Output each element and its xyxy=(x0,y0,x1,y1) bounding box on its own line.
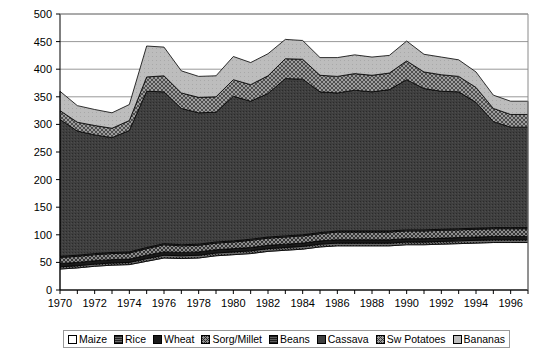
x-axis-tick-label: 1976 xyxy=(152,297,176,309)
legend-swatch-bananas xyxy=(453,335,462,344)
legend-swatch-maize xyxy=(68,335,77,344)
legend-swatch-beans xyxy=(269,335,278,344)
legend-swatch-wheat xyxy=(153,335,162,344)
legend-item-maize[interactable]: Maize xyxy=(68,334,107,344)
legend-label-sorg-millet: Sorg/Millet xyxy=(212,334,262,344)
x-axis-tick-label: 1980 xyxy=(221,297,245,309)
legend-swatch-cassava xyxy=(317,335,326,344)
y-axis-ticks: 050100150200250300350400450500 xyxy=(34,8,60,296)
x-axis-tick-label: 1982 xyxy=(256,297,280,309)
x-axis-ticks: 1970197219741976197819801982198419861988… xyxy=(48,290,528,309)
legend-label-maize: Maize xyxy=(79,334,107,344)
legend-label-rice: Rice xyxy=(125,334,146,344)
legend-item-rice[interactable]: Rice xyxy=(114,334,146,344)
y-axis-tick-label: 0 xyxy=(46,284,52,296)
x-axis-tick-label: 1996 xyxy=(498,297,522,309)
y-axis-tick-label: 450 xyxy=(34,36,52,48)
x-axis-tick-label: 1974 xyxy=(117,297,141,309)
x-axis-tick-label: 1992 xyxy=(429,297,453,309)
x-axis-tick-label: 1972 xyxy=(82,297,106,309)
y-axis-tick-label: 350 xyxy=(34,91,52,103)
legend-swatch-rice xyxy=(114,335,123,344)
chart-legend: MaizeRiceWheatSorg/MilletBeansCassavaSw … xyxy=(63,330,510,348)
legend-label-beans: Beans xyxy=(280,334,310,344)
y-axis-tick-label: 400 xyxy=(34,63,52,75)
y-axis-tick-label: 500 xyxy=(34,8,52,20)
y-axis-tick-label: 50 xyxy=(40,256,52,268)
y-axis-tick-label: 250 xyxy=(34,146,52,158)
x-axis-tick-label: 1970 xyxy=(48,297,72,309)
x-axis-tick-label: 1988 xyxy=(360,297,384,309)
y-axis-tick-label: 200 xyxy=(34,174,52,186)
x-axis-tick-label: 1978 xyxy=(186,297,210,309)
legend-label-bananas: Bananas xyxy=(464,334,505,344)
chart-canvas: 050100150200250300350400450500 197019721… xyxy=(0,0,554,355)
legend-item-sorg-millet[interactable]: Sorg/Millet xyxy=(201,334,262,344)
legend-label-wheat: Wheat xyxy=(164,334,194,344)
stacked-area-chart: 050100150200250300350400450500 197019721… xyxy=(0,0,554,355)
legend-label-cassava: Cassava xyxy=(328,334,369,344)
x-axis-tick-label: 1986 xyxy=(325,297,349,309)
legend-item-sw-potatoes[interactable]: Sw Potatoes xyxy=(376,334,446,344)
y-axis-tick-label: 300 xyxy=(34,118,52,130)
legend-swatch-sw-potatoes xyxy=(376,335,385,344)
legend-item-bananas[interactable]: Bananas xyxy=(453,334,505,344)
legend-swatch-sorg-millet xyxy=(201,335,210,344)
y-axis-tick-label: 150 xyxy=(34,201,52,213)
y-axis-tick-label: 100 xyxy=(34,229,52,241)
x-axis-tick-label: 1990 xyxy=(394,297,418,309)
x-axis-tick-label: 1994 xyxy=(464,297,488,309)
x-axis-tick-label: 1984 xyxy=(290,297,314,309)
legend-item-cassava[interactable]: Cassava xyxy=(317,334,369,344)
legend-label-sw-potatoes: Sw Potatoes xyxy=(387,334,446,344)
legend-item-wheat[interactable]: Wheat xyxy=(153,334,194,344)
legend-item-beans[interactable]: Beans xyxy=(269,334,310,344)
